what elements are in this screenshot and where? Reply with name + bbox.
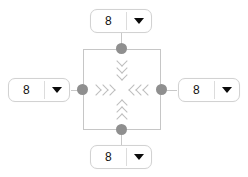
chevrons-up-icon [114,100,130,124]
spacing-input-left[interactable]: 8 [8,78,70,102]
drag-handle-right[interactable] [156,84,167,95]
spacing-dropdown-right[interactable] [215,79,239,101]
chevron-up-icon [116,113,127,124]
spacing-value-left[interactable]: 8 [9,79,44,101]
chevron-down-icon [222,87,232,93]
chevrons-right-icon [90,83,116,97]
spacing-input-right[interactable]: 8 [178,78,240,102]
spacing-input-bottom[interactable]: 8 [90,145,152,169]
spacing-input-top[interactable]: 8 [90,9,152,33]
drag-handle-bottom[interactable] [116,124,127,135]
spacing-control-widget: 8 8 8 8 [0,0,248,177]
chevron-down-icon [52,87,62,93]
spacing-value-top[interactable]: 8 [91,10,126,32]
chevron-right-icon [104,84,115,95]
drag-handle-top[interactable] [116,43,127,54]
spacing-value-right[interactable]: 8 [179,79,214,101]
chevrons-down-icon [114,56,130,80]
chevron-down-icon [116,69,127,80]
spacing-dropdown-left[interactable] [45,79,69,101]
spacing-value-bottom[interactable]: 8 [91,146,126,168]
chevron-down-icon [134,18,144,24]
chevrons-left-icon [128,83,154,97]
chevron-down-icon [134,154,144,160]
drag-handle-left[interactable] [77,84,88,95]
chevron-left-icon [142,84,153,95]
spacing-dropdown-top[interactable] [127,10,151,32]
spacing-dropdown-bottom[interactable] [127,146,151,168]
